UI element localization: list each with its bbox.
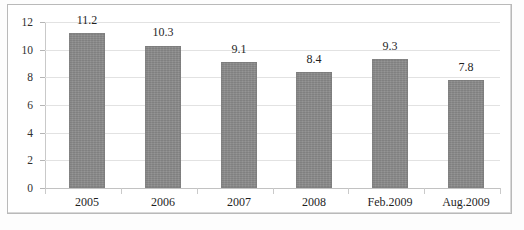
x-tick-label-2007: 2007 xyxy=(227,195,251,210)
category-separator xyxy=(273,188,274,194)
bar-2008[interactable] xyxy=(296,72,332,188)
gridline xyxy=(45,50,500,51)
y-tick-label: 6 xyxy=(27,99,33,111)
y-tick-mark xyxy=(40,77,45,78)
chart-frame: 12 10 8 6 4 2 0 xyxy=(7,4,512,214)
bar-aug-2009[interactable] xyxy=(448,80,484,188)
plot-area: 11.2 10.3 9.1 8.4 9.3 7.8 xyxy=(45,22,500,188)
bar-2005[interactable] xyxy=(69,33,105,188)
bar-feb-2009[interactable] xyxy=(372,59,408,188)
caption-strip xyxy=(0,219,524,230)
category-separator xyxy=(424,188,425,194)
x-tick-label-aug-2009: Aug.2009 xyxy=(442,195,490,210)
y-tick-mark xyxy=(40,105,45,106)
y-tick-label: 8 xyxy=(27,71,33,83)
category-separator xyxy=(45,188,46,194)
y-tick-label: 2 xyxy=(27,154,33,166)
category-separator xyxy=(500,188,501,194)
gridline xyxy=(45,160,500,161)
category-separator xyxy=(197,188,198,194)
category-separator xyxy=(348,188,349,194)
data-label-2006: 10.3 xyxy=(153,25,174,40)
data-label-aug-2009: 7.8 xyxy=(459,60,474,75)
y-tick-mark xyxy=(40,22,45,23)
data-label-2008: 8.4 xyxy=(307,52,322,67)
gridline xyxy=(45,77,500,78)
data-label-feb-2009: 9.3 xyxy=(383,39,398,54)
x-tick-label-feb-2009: Feb.2009 xyxy=(368,195,413,210)
bar-2007[interactable] xyxy=(221,62,257,188)
chart-figure: 12 10 8 6 4 2 0 xyxy=(0,0,524,230)
y-tick-mark xyxy=(40,50,45,51)
y-tick-label: 12 xyxy=(22,16,34,28)
gridline xyxy=(45,133,500,134)
y-tick-mark xyxy=(40,160,45,161)
y-tick-label: 0 xyxy=(27,182,33,194)
x-axis: 2005 2006 2007 2008 Feb.2009 Aug.2009 xyxy=(45,188,500,210)
bar-2006[interactable] xyxy=(145,46,181,188)
y-tick-label: 10 xyxy=(22,44,34,56)
x-tick-label-2006: 2006 xyxy=(151,195,175,210)
y-tick-mark xyxy=(40,133,45,134)
category-separator xyxy=(121,188,122,194)
x-tick-label-2008: 2008 xyxy=(302,195,326,210)
data-label-2007: 9.1 xyxy=(232,42,247,57)
data-label-2005: 11.2 xyxy=(77,13,98,28)
gridline xyxy=(45,22,500,23)
gridline xyxy=(45,105,500,106)
y-axis-labels: 12 10 8 6 4 2 0 xyxy=(8,22,41,188)
x-tick-label-2005: 2005 xyxy=(75,195,99,210)
y-tick-label: 4 xyxy=(27,127,33,139)
